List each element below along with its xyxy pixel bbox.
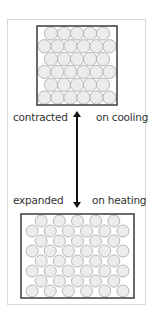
contracted-label: contracted bbox=[13, 111, 68, 123]
particle bbox=[83, 52, 96, 65]
particle bbox=[51, 40, 64, 53]
particle bbox=[26, 225, 38, 237]
particle bbox=[44, 245, 56, 257]
particle bbox=[64, 65, 77, 78]
expanded-label: expanded bbox=[13, 194, 63, 206]
particle bbox=[26, 265, 38, 277]
particle bbox=[99, 285, 111, 297]
on-heating-label: on heating bbox=[92, 194, 146, 206]
particle bbox=[96, 27, 109, 40]
particle bbox=[90, 40, 103, 53]
on-cooling-label: on cooling bbox=[96, 111, 148, 123]
particle bbox=[108, 215, 120, 227]
expanded-particles bbox=[26, 215, 129, 297]
particle bbox=[53, 235, 65, 247]
particle bbox=[77, 65, 90, 78]
particle bbox=[53, 255, 65, 267]
particle bbox=[44, 78, 57, 91]
particle bbox=[117, 265, 129, 277]
particle bbox=[108, 255, 120, 267]
particle bbox=[96, 78, 109, 91]
particle bbox=[35, 275, 47, 287]
particle bbox=[99, 225, 111, 237]
particle bbox=[53, 275, 65, 287]
particle bbox=[117, 245, 129, 257]
particle bbox=[70, 78, 83, 91]
particle bbox=[72, 255, 84, 267]
particle bbox=[117, 225, 129, 237]
particle bbox=[99, 265, 111, 277]
particle bbox=[117, 285, 129, 297]
particle bbox=[57, 78, 70, 91]
particle bbox=[90, 255, 102, 267]
particle bbox=[72, 235, 84, 247]
particle bbox=[83, 27, 96, 40]
particle bbox=[103, 40, 116, 53]
particle bbox=[70, 52, 83, 65]
particle bbox=[44, 52, 57, 65]
particle bbox=[70, 27, 83, 40]
particle bbox=[38, 65, 51, 78]
particle bbox=[57, 52, 70, 65]
particle bbox=[108, 235, 120, 247]
thermal-expansion-diagram bbox=[0, 0, 155, 321]
particle bbox=[83, 78, 96, 91]
particle bbox=[81, 265, 93, 277]
particle bbox=[64, 91, 77, 104]
particle bbox=[103, 65, 116, 78]
particle bbox=[72, 215, 84, 227]
particle bbox=[38, 91, 51, 104]
particle bbox=[90, 215, 102, 227]
particle bbox=[44, 265, 56, 277]
particle bbox=[64, 40, 77, 53]
particle bbox=[51, 65, 64, 78]
particle bbox=[90, 275, 102, 287]
particle bbox=[35, 215, 47, 227]
particle bbox=[72, 275, 84, 287]
particle bbox=[81, 285, 93, 297]
particle bbox=[44, 27, 57, 40]
particle bbox=[35, 255, 47, 267]
particle bbox=[53, 215, 65, 227]
particle bbox=[90, 91, 103, 104]
particle bbox=[62, 245, 74, 257]
particle bbox=[51, 91, 64, 104]
particle bbox=[108, 275, 120, 287]
particle bbox=[99, 245, 111, 257]
particle bbox=[77, 91, 90, 104]
contracted-particles bbox=[38, 27, 116, 104]
particle bbox=[35, 235, 47, 247]
particle bbox=[26, 245, 38, 257]
particle bbox=[62, 265, 74, 277]
particle bbox=[90, 235, 102, 247]
particle bbox=[44, 285, 56, 297]
particle bbox=[44, 225, 56, 237]
particle bbox=[57, 27, 70, 40]
particle bbox=[90, 65, 103, 78]
particle bbox=[81, 225, 93, 237]
particle bbox=[103, 91, 116, 104]
particle bbox=[62, 285, 74, 297]
particle bbox=[96, 52, 109, 65]
particle bbox=[81, 245, 93, 257]
particle bbox=[62, 225, 74, 237]
particle bbox=[38, 40, 51, 53]
particle bbox=[26, 285, 38, 297]
particle bbox=[77, 40, 90, 53]
